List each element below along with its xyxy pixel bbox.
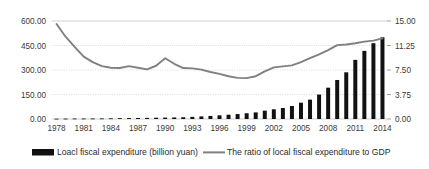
bar <box>127 118 131 119</box>
x-axis-tick-label: 1999 <box>238 124 257 133</box>
left-axis-tick-label: 0.00 <box>30 115 46 124</box>
bar <box>380 37 384 119</box>
bar <box>299 103 303 119</box>
bar <box>181 117 185 119</box>
bar <box>281 108 285 119</box>
x-axis-tick-label: 1990 <box>156 124 175 133</box>
bar <box>317 95 321 119</box>
left-axis-tick-label: 300.00 <box>21 66 46 75</box>
bar <box>344 72 348 119</box>
bar <box>308 100 312 119</box>
dual-axis-chart: 0.00150.00300.00450.00600.00 0.003.757.5… <box>0 0 429 169</box>
right-axis-tick-label: 15.00 <box>395 17 416 26</box>
x-axis-tick-label: 2014 <box>373 124 392 133</box>
bar <box>163 118 167 119</box>
x-axis-tick-label: 2011 <box>347 124 365 133</box>
x-axis-tick-label: 1984 <box>102 124 121 133</box>
bar <box>371 43 375 119</box>
bar <box>100 118 104 119</box>
bar <box>326 88 330 119</box>
bar <box>362 51 366 119</box>
bar <box>73 119 77 120</box>
x-axis-tick-label: 1981 <box>75 124 94 133</box>
bar <box>118 118 122 119</box>
bar <box>55 119 59 120</box>
bar <box>136 118 140 119</box>
bar <box>208 116 212 119</box>
bar <box>254 112 258 119</box>
bar <box>82 119 86 120</box>
x-axis-tick-label: 1987 <box>129 124 148 133</box>
right-axis-tick-label: 11.25 <box>395 42 415 51</box>
right-axis-tick-label: 7.50 <box>395 66 411 75</box>
bar <box>245 113 249 119</box>
bar <box>335 80 339 119</box>
bar <box>263 111 267 119</box>
bar <box>290 106 294 119</box>
bar <box>145 118 149 119</box>
chart-container: 0.00150.00300.00450.00600.00 0.003.757.5… <box>0 0 429 169</box>
left-axis-tick-label: 600.00 <box>21 17 46 26</box>
x-axis-tick-label: 2005 <box>292 124 311 133</box>
legend-bar-swatch <box>32 149 54 156</box>
bar <box>227 115 231 119</box>
right-axis-tick-label: 0.00 <box>395 115 411 124</box>
x-axis-tick-label: 1993 <box>183 124 202 133</box>
right-axis-tick-label: 3.75 <box>395 91 411 100</box>
bar <box>353 60 357 119</box>
left-axis-tick-label: 150.00 <box>21 91 46 100</box>
x-axis-tick-label: 2008 <box>319 124 338 133</box>
x-axis-tick-label: 2002 <box>265 124 284 133</box>
legend-label-bar: Loacl fiscal expenditure (billion yuan) <box>57 147 198 157</box>
bar <box>172 117 176 119</box>
bar <box>190 117 194 119</box>
x-axis-tick-label: 1996 <box>210 124 229 133</box>
bar <box>236 114 240 119</box>
bar <box>64 119 68 120</box>
legend-label-line: The ratio of local fiscal expenditure to… <box>227 147 391 157</box>
bar <box>199 116 203 119</box>
x-axis-tick-label: 1978 <box>47 124 66 133</box>
bar <box>272 109 276 119</box>
bar <box>218 115 222 119</box>
bar <box>109 118 113 119</box>
bar <box>91 118 95 119</box>
bar <box>154 118 158 119</box>
left-axis-tick-label: 450.00 <box>21 42 46 51</box>
